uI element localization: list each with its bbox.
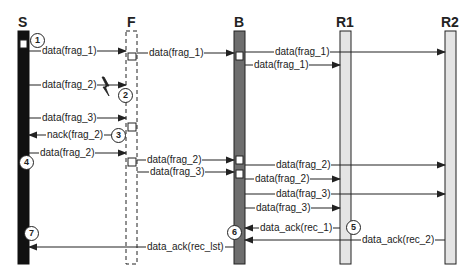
buffer-icon (20, 40, 27, 48)
step-marker-4: 4 (19, 155, 34, 170)
step-marker-7: 7 (24, 226, 39, 241)
step-marker-1: 1 (30, 33, 45, 48)
message-label: data(frag_3) (255, 202, 311, 213)
step-marker-2: 2 (118, 88, 133, 103)
message-label: data(frag_2) (275, 159, 331, 170)
message-label: data(frag_3) (41, 112, 97, 123)
participant-s-label: S (18, 15, 27, 29)
buffer-icon (128, 158, 136, 166)
lifeline-f (126, 31, 137, 264)
message-label: data_ack(rec_2) (361, 234, 435, 245)
buffer-icon (128, 123, 136, 131)
message-label: data(frag_3) (275, 188, 331, 199)
message-label: data(frag_2) (41, 79, 97, 90)
lightning-icon (102, 77, 109, 96)
buffer-icon (236, 156, 243, 164)
message-label: data(frag_1) (274, 46, 330, 57)
message-label: data_ack(rec_lst) (146, 241, 225, 252)
message-label: data(frag_1) (41, 45, 97, 56)
step-marker-5: 5 (346, 220, 361, 235)
message-label: data(frag_2) (146, 154, 202, 165)
lifeline-r2 (445, 31, 456, 264)
message-label: nack(frag_2) (46, 129, 104, 140)
message-label: data(frag_2) (254, 173, 310, 184)
message-label: data(frag_3) (149, 166, 205, 177)
buffer-icon (236, 52, 243, 60)
sequence-diagram: S F B R1 R2 data(frag_1) data(frag_1) da… (0, 0, 474, 278)
buffer-icon (236, 170, 243, 178)
message-label: data(frag_2) (39, 147, 95, 158)
participant-r1-label: R1 (336, 15, 354, 29)
buffer-icon (128, 53, 136, 60)
message-label: data_ack(rec_1) (259, 222, 333, 233)
participant-f-label: F (127, 15, 136, 29)
step-marker-3: 3 (111, 128, 126, 143)
participant-b-label: B (234, 15, 244, 29)
message-label: data(frag_1) (148, 47, 204, 58)
message-label: data(frag_1) (253, 59, 309, 70)
step-marker-6: 6 (227, 225, 242, 240)
participant-r2-label: R2 (441, 15, 459, 29)
